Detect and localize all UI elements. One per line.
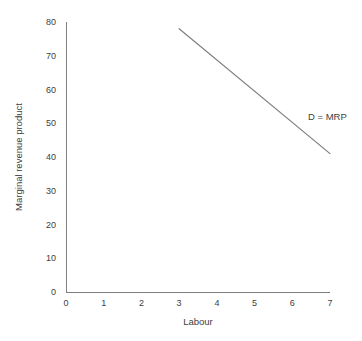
series-annotation-d-mrp: D = MRP xyxy=(308,111,347,122)
data-series-line-d-mrp xyxy=(179,29,330,154)
chart-container: Marginal revenue product 80 70 60 50 40 … xyxy=(0,0,362,341)
plot-area xyxy=(0,0,362,341)
